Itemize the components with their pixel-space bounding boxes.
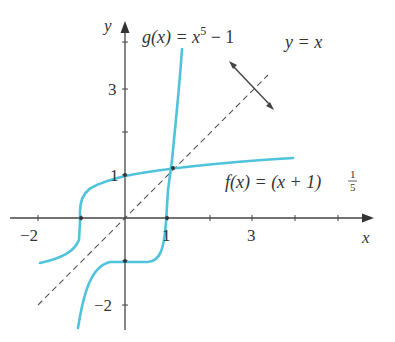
y-tick-label-1: 1 [110, 166, 119, 185]
inverse-functions-plot: y x −2 1 3 3 1 −2 g(x) = x5 − 1 y = x f(… [0, 0, 395, 342]
identity-line-label: y = x [283, 32, 322, 52]
x-tick-label-3: 3 [247, 226, 256, 245]
x-axis [10, 214, 374, 223]
x-tick-label-1: 1 [162, 226, 171, 245]
y-tick-label-neg2: −2 [94, 296, 112, 315]
f-exponent-denominator: 5 [350, 181, 356, 193]
f-function-label: f(x) = (x + 1) [225, 172, 321, 193]
y-axis-label: y [102, 16, 112, 35]
x-tick-label-neg2: −2 [20, 226, 38, 245]
reflection-arrow-icon [229, 61, 274, 110]
marked-points [79, 166, 175, 263]
x-axis-label: x [361, 228, 370, 247]
g-curve [78, 49, 182, 328]
g-function-label: g(x) = x5 − 1 [142, 24, 234, 48]
f-exponent-numerator: 1 [350, 168, 356, 180]
y-tick-label-3: 3 [108, 80, 117, 99]
